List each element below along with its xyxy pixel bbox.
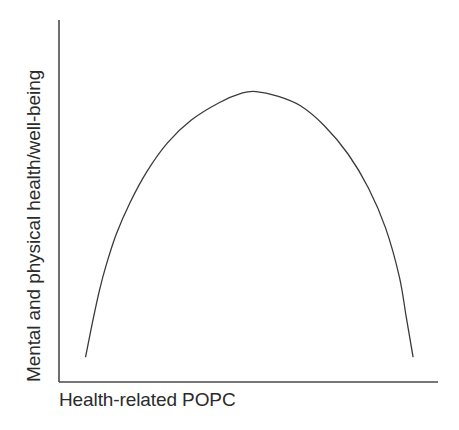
y-axis-label: Mental and physical health/well-being (24, 2, 48, 382)
x-axis-label: Health-related POPC (59, 390, 236, 409)
inverted-u-curve (86, 91, 413, 356)
chart-plot-area (0, 0, 459, 430)
chart-figure: Health-related POPC Mental and physical … (0, 0, 459, 430)
